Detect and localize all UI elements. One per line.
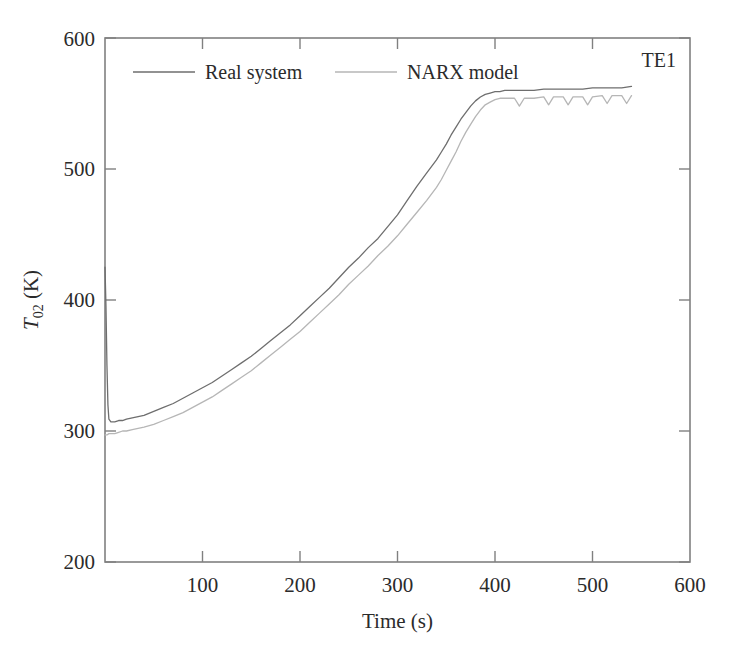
- x-axis-title: Time (s): [362, 609, 433, 633]
- line-chart: 200 300 400 500 600 100 200 300 400 500 …: [0, 0, 740, 645]
- x-tick-label: 100: [187, 573, 219, 597]
- x-tick-label: 500: [577, 573, 609, 597]
- y-axis-title-subscript: 02: [31, 304, 46, 318]
- chart-annotation-te1: TE1: [642, 49, 676, 71]
- y-tick-label: 600: [64, 27, 96, 51]
- y-axis-title: T02 (K): [19, 270, 46, 330]
- y-tick-labels: 200 300 400 500 600: [64, 27, 96, 574]
- chart-figure: 200 300 400 500 600 100 200 300 400 500 …: [0, 0, 740, 645]
- plot-frame: [105, 38, 690, 562]
- y-tick-label: 200: [64, 550, 96, 574]
- x-tick-label: 300: [382, 573, 414, 597]
- legend-label-real-system: Real system: [205, 61, 303, 84]
- x-tick-label: 400: [479, 573, 511, 597]
- y-axis-title-unit: (K): [19, 270, 43, 304]
- x-tick-label: 200: [284, 573, 316, 597]
- x-tick-label: 600: [674, 573, 706, 597]
- y-tick-label: 400: [64, 288, 96, 312]
- y-tick-label: 300: [64, 419, 96, 443]
- y-tick-label: 500: [64, 157, 96, 181]
- svg-text:T02 (K): T02 (K): [19, 270, 46, 330]
- x-tick-labels: 100 200 300 400 500 600: [187, 573, 706, 597]
- legend-label-narx-model: NARX model: [407, 61, 519, 83]
